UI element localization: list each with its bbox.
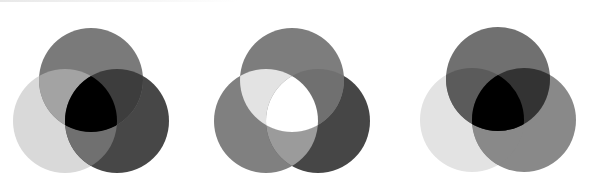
venn-1 — [13, 28, 169, 173]
venn-figure — [0, 0, 602, 189]
venn-diagrams-canvas — [0, 0, 602, 189]
venn-2 — [214, 28, 370, 173]
venn-3 — [420, 27, 576, 172]
